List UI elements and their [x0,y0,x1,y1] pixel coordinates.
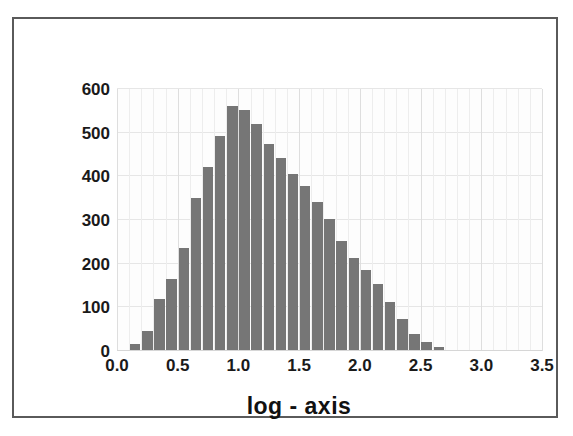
bar [312,202,322,351]
bar [324,219,334,351]
y-tick-label-100: 100 [58,299,110,316]
bar [227,106,237,351]
bar [373,284,383,351]
gridline-x-3.4 [530,89,531,351]
bar [276,158,286,351]
x-tick-label-1.5: 1.5 [269,357,329,376]
bar [251,124,261,351]
bar [191,198,201,351]
x-axis-tick-labels: 0.00.51.01.52.02.53.03.5 [117,357,542,383]
y-axis-tick-labels: 0100200300400500600 [44,89,110,351]
y-tick-label-600: 600 [58,81,110,98]
gridline-y-500 [117,132,542,133]
bar [215,136,225,351]
x-tick-label-2.5: 2.5 [391,357,451,376]
bar [239,110,249,351]
bar [288,174,298,351]
y-tick-label-300: 300 [58,212,110,229]
bar [166,279,176,351]
bar [385,302,395,351]
bar [361,270,371,351]
figure-root: 0100200300400500600 0.00.51.01.52.02.53.… [0,0,573,436]
x-axis-title: log - axis [26,393,572,420]
gridline-x-2.9 [469,89,470,351]
bar [397,319,407,351]
bar [409,334,419,351]
bar [264,144,274,351]
gridline-x-3.2 [506,89,507,351]
bar [336,241,346,351]
bar [142,331,152,351]
bar [154,299,164,351]
gridline-y-600 [117,88,542,89]
gridline-x-2.5 [421,89,422,351]
x-tick-label-3.0: 3.0 [451,357,511,376]
gridline-y-400 [117,175,542,176]
gridline-x-2.3 [396,89,397,351]
x-tick-label-3.5: 3.5 [512,357,572,376]
gridline-x-3.1 [493,89,494,351]
x-axis-baseline [117,350,542,351]
x-tick-label-1.0: 1.0 [208,357,268,376]
y-tick-label-500: 500 [58,124,110,141]
x-tick-label-0.5: 0.5 [148,357,208,376]
bar [203,167,213,351]
gridline-x-0.1 [129,89,130,351]
gridline-x-3.0 [481,89,482,351]
gridline-x-0.2 [141,89,142,351]
bar [349,258,359,351]
x-tick-label-0.0: 0.0 [87,357,147,376]
gridline-x-3.3 [518,89,519,351]
bar [179,248,189,351]
histogram-plot-area [117,89,542,351]
y-tick-label-200: 200 [58,255,110,272]
gridline-x-2.7 [445,89,446,351]
gridline-x-3.5 [542,89,543,351]
figure-frame: 0100200300400500600 0.00.51.01.52.02.53.… [12,17,558,418]
x-tick-label-2.0: 2.0 [330,357,390,376]
bar [300,186,310,351]
gridline-x-2.4 [408,89,409,351]
gridline-x-0.0 [117,89,118,351]
gridline-x-2.6 [433,89,434,351]
y-tick-label-400: 400 [58,168,110,185]
gridline-x-2.8 [457,89,458,351]
